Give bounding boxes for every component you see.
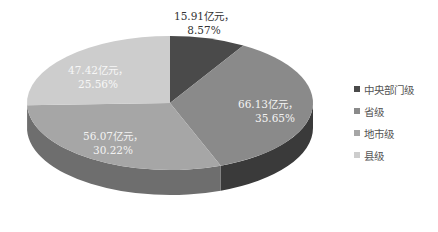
legend-swatch-icon [354,152,360,158]
label-province-pct: 35.65% [255,112,295,124]
label-county-amount: 47.42亿元， [68,64,128,76]
legend-swatch-icon [354,130,360,136]
label-central-pct: 8.57% [187,24,220,36]
legend-swatch-icon [354,108,360,114]
legend-item-province: 省级 [354,100,414,122]
legend-label: 县级 [364,148,384,163]
label-city-pct: 30.22% [93,144,133,156]
label-central-amount: 15.91亿元， [174,10,234,22]
legend-item-county: 县级 [354,144,414,166]
legend-swatch-icon [354,86,360,92]
legend-label: 省级 [364,104,384,119]
label-county-pct: 25.56% [78,78,118,90]
legend-item-central: 中央部门级 [354,78,414,100]
label-city-amount: 56.07亿元， [83,130,143,142]
legend: 中央部门级 省级 地市级 县级 [354,78,414,166]
legend-item-city: 地市级 [354,122,414,144]
legend-label: 中央部门级 [364,82,414,97]
legend-label: 地市级 [364,126,394,141]
label-province-amount: 66.13亿元， [238,98,298,110]
